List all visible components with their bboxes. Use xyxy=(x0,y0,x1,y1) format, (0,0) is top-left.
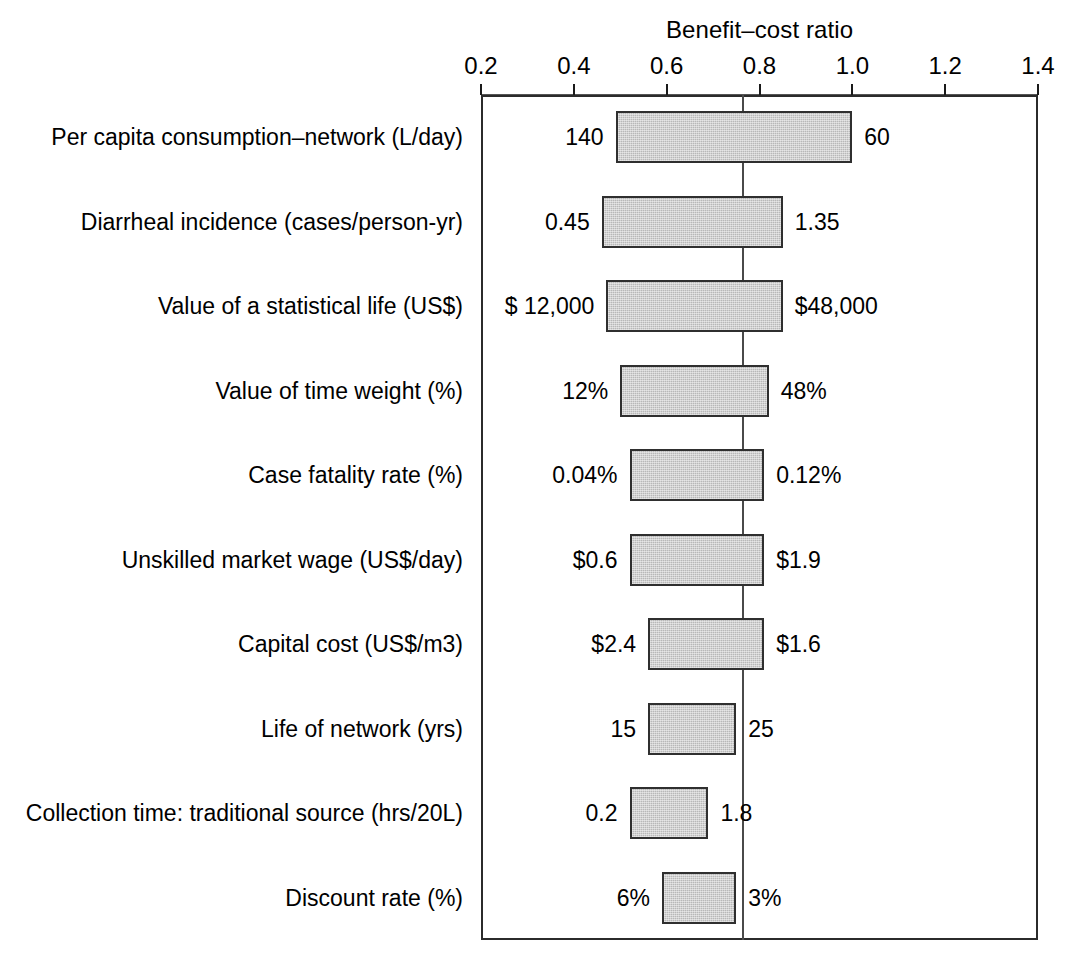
bar-high-annotation: $1.6 xyxy=(776,631,821,658)
tornado-row: Value of a statistical life (US$)$ 12,00… xyxy=(0,264,1081,349)
tornado-row: Per capita consumption–network (L/day)14… xyxy=(0,95,1081,180)
tornado-bar xyxy=(648,703,736,755)
x-tick-mark-0 xyxy=(480,84,482,95)
row-label: Value of a statistical life (US$) xyxy=(158,293,463,320)
x-tick-mark-2 xyxy=(666,84,668,95)
bar-low-annotation: 140 xyxy=(565,124,603,151)
x-tick-mark-6 xyxy=(1037,84,1039,95)
row-label: Discount rate (%) xyxy=(285,884,463,911)
tornado-bar xyxy=(616,111,853,163)
x-tick-label-3: 0.8 xyxy=(743,52,776,80)
tornado-bar xyxy=(620,365,769,417)
bar-high-annotation: $1.9 xyxy=(776,546,821,573)
tornado-bar xyxy=(662,872,736,924)
x-axis-title: Benefit–cost ratio xyxy=(481,16,1038,44)
bar-high-annotation: 60 xyxy=(864,124,890,151)
tornado-row: Collection time: traditional source (hrs… xyxy=(0,771,1081,856)
x-tick-label-0: 0.2 xyxy=(464,52,497,80)
tornado-row: Unskilled market wage (US$/day)$0.6$1.9 xyxy=(0,518,1081,603)
row-label: Capital cost (US$/m3) xyxy=(238,631,463,658)
x-tick-label-4: 1.0 xyxy=(836,52,869,80)
row-label: Diarrheal incidence (cases/person-yr) xyxy=(81,208,463,235)
tornado-row: Capital cost (US$/m3)$2.4$1.6 xyxy=(0,602,1081,687)
row-label: Collection time: traditional source (hrs… xyxy=(26,800,463,827)
tornado-row: Case fatality rate (%)0.04%0.12% xyxy=(0,433,1081,518)
bar-low-annotation: 15 xyxy=(611,715,637,742)
tornado-rows: Per capita consumption–network (L/day)14… xyxy=(0,95,1081,940)
bar-low-annotation: $ 12,000 xyxy=(505,293,595,320)
tornado-bar xyxy=(630,449,765,501)
tornado-row: Diarrheal incidence (cases/person-yr)0.4… xyxy=(0,180,1081,265)
bar-high-annotation: $48,000 xyxy=(795,293,878,320)
x-tick-mark-3 xyxy=(759,84,761,95)
bar-high-annotation: 1.35 xyxy=(795,208,840,235)
x-axis-tick-labels: 0.20.40.60.81.01.21.4 xyxy=(0,52,1081,82)
tornado-bar xyxy=(630,787,709,839)
x-tick-label-2: 0.6 xyxy=(650,52,683,80)
bar-high-annotation: 0.12% xyxy=(776,462,841,489)
bar-high-annotation: 3% xyxy=(748,884,781,911)
tornado-row: Life of network (yrs)1525 xyxy=(0,687,1081,772)
row-label: Case fatality rate (%) xyxy=(248,462,463,489)
tornado-row: Discount rate (%)6%3% xyxy=(0,856,1081,941)
tornado-bar xyxy=(602,196,783,248)
tornado-bar xyxy=(648,618,764,670)
bar-low-annotation: $0.6 xyxy=(573,546,618,573)
tornado-row: Value of time weight (%)12%48% xyxy=(0,349,1081,434)
bar-low-annotation: 0.2 xyxy=(586,800,618,827)
x-tick-label-5: 1.2 xyxy=(928,52,961,80)
bar-low-annotation: 6% xyxy=(617,884,650,911)
bar-high-annotation: 25 xyxy=(748,715,774,742)
bar-low-annotation: 0.04% xyxy=(552,462,617,489)
row-label: Life of network (yrs) xyxy=(261,715,463,742)
row-label: Unskilled market wage (US$/day) xyxy=(122,546,463,573)
tornado-chart-figure: Benefit–cost ratio 0.20.40.60.81.01.21.4… xyxy=(0,0,1081,968)
bar-high-annotation: 48% xyxy=(781,377,827,404)
x-tick-label-1: 0.4 xyxy=(557,52,590,80)
row-label: Per capita consumption–network (L/day) xyxy=(51,124,463,151)
x-tick-mark-1 xyxy=(573,84,575,95)
tornado-bar xyxy=(606,280,782,332)
x-tick-mark-5 xyxy=(944,84,946,95)
bar-low-annotation: 0.45 xyxy=(545,208,590,235)
tornado-bar xyxy=(630,534,765,586)
x-tick-label-6: 1.4 xyxy=(1021,52,1054,80)
bar-low-annotation: $2.4 xyxy=(591,631,636,658)
bar-high-annotation: 1.8 xyxy=(720,800,752,827)
row-label: Value of time weight (%) xyxy=(215,377,463,404)
x-tick-mark-4 xyxy=(851,84,853,95)
bar-low-annotation: 12% xyxy=(562,377,608,404)
